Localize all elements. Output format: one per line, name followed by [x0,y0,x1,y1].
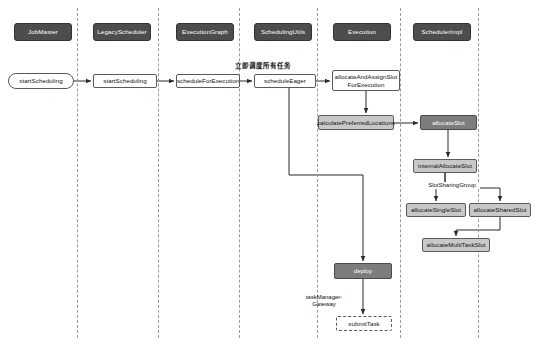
node-internal-allocate-slot[interactable]: internalAllocateSlot [413,159,477,173]
actor-schedulingutils[interactable]: SchedulingUtils [254,23,312,41]
annotation-task-manager-gateway: taskManager- Gateway [296,294,352,308]
node-allocate-slot[interactable]: allocateSlot [420,115,477,130]
annotation-slot-sharing-group: SlotSharingGroup [424,182,480,189]
lifeline-schedulingutils [317,8,318,338]
lifeline-legacyscheduler [158,8,159,338]
edge-eager-to-deploy [289,88,363,261]
node-start-scheduling-call[interactable]: startScheduling [93,74,157,88]
node-schedule-eager[interactable]: scheduleEager [254,74,316,88]
actor-executiongraph[interactable]: ExecutionGraph [176,23,234,41]
node-allocate-single-slot[interactable]: allocateSingleSlot [406,203,466,217]
lifeline-execution [400,8,401,338]
node-allocate-shared-slot[interactable]: allocateSharedSlot [469,203,531,217]
annotation-schedule-all-tasks-immediately: 立即调度所有任务 [218,60,308,70]
node-calculate-preferred-locations[interactable]: calculatePreferredLocations [318,115,394,130]
actor-schedulerimpl[interactable]: SchedulerImpl [413,23,471,41]
uml-sequence-diagram: JobMaster LegacyScheduler ExecutionGraph… [0,0,536,344]
node-start-scheduling-entry[interactable]: startScheduling [8,73,74,89]
actor-execution[interactable]: Execution [333,23,391,41]
lifeline-executiongraph [239,8,240,338]
node-submit-task[interactable]: submitTask [336,316,392,331]
lifeline-schedulerimpl [478,8,479,338]
actor-legacyscheduler[interactable]: LegacyScheduler [93,23,151,41]
actor-jobmaster[interactable]: JobMaster [14,23,72,41]
lifeline-jobmaster [77,8,78,338]
node-deploy[interactable]: deploy [334,263,392,279]
node-schedule-for-execution[interactable]: scheduleForExecution [176,74,240,88]
node-allocate-and-assign-slot-for-execution[interactable]: allocateAndAssignSlot ForExecution [332,70,400,91]
node-allocate-multi-task-slot[interactable]: allocateMultiTaskSlot [422,238,490,252]
